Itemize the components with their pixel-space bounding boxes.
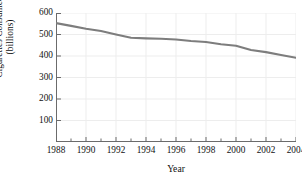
y-axis-title: Cigarettes Consumed (billions) xyxy=(0,0,20,97)
y-tick-label: 600 xyxy=(29,8,53,17)
y-tick-label: 400 xyxy=(29,51,53,60)
x-axis-tick-labels: 198819901992199419961998200020022004 xyxy=(0,146,302,160)
x-tick-label: 2000 xyxy=(219,146,253,155)
x-tick-label: 1994 xyxy=(129,146,163,155)
y-axis-ticks xyxy=(57,13,62,121)
x-tick-label: 1998 xyxy=(189,146,223,155)
x-tick-label: 2002 xyxy=(249,146,283,155)
y-tick-label: 200 xyxy=(29,94,53,103)
y-axis-title-line-2: (billions) xyxy=(5,0,16,97)
plot-svg xyxy=(56,13,296,142)
y-tick-label: 300 xyxy=(29,73,53,82)
y-tick-label: 100 xyxy=(29,116,53,125)
x-tick-label: 1988 xyxy=(39,146,73,155)
cigarette-consumption-line-chart: Cigarette Consumption per Year Cigarette… xyxy=(0,0,302,184)
x-tick-label: 1990 xyxy=(69,146,103,155)
x-tick-label: 1992 xyxy=(99,146,133,155)
plot-area xyxy=(56,13,296,142)
y-tick-label: 500 xyxy=(29,30,53,39)
x-tick-label: 2004 xyxy=(279,146,302,155)
x-tick-label: 1996 xyxy=(159,146,193,155)
x-axis-title: Year xyxy=(56,163,296,174)
